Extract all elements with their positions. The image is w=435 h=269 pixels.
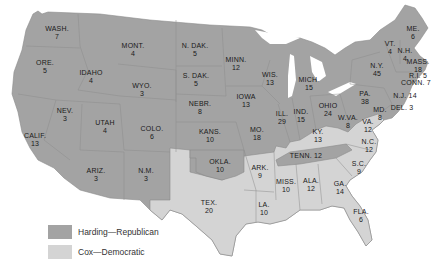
state-name: N.M. bbox=[138, 167, 154, 175]
state-label: WYO.3 bbox=[132, 82, 151, 98]
state-name: NEV. bbox=[57, 107, 74, 115]
legend-label-democratic: Cox—Democratic bbox=[78, 247, 145, 257]
state-label: NEV.3 bbox=[57, 107, 74, 123]
state-label: ARIZ.3 bbox=[87, 167, 106, 183]
state-name: ARIZ. bbox=[87, 167, 106, 175]
state-name: NEBR. bbox=[189, 100, 211, 108]
state-name: MONT. bbox=[122, 42, 145, 50]
state-name: COLO. bbox=[141, 125, 164, 133]
electoral-votes: 5 bbox=[183, 80, 209, 88]
electoral-votes: 3 bbox=[138, 175, 154, 183]
electoral-votes: 13 bbox=[24, 140, 46, 148]
electoral-votes: 12 bbox=[314, 152, 322, 159]
state-name: W.VA. bbox=[338, 114, 358, 122]
state-label: N.C.12 bbox=[362, 138, 377, 154]
legend-item-republican: Harding—Republican bbox=[48, 223, 159, 241]
state-name: ORE. bbox=[36, 59, 54, 67]
state-label: LA.10 bbox=[258, 201, 269, 217]
state-label: MISS.10 bbox=[276, 178, 296, 194]
state-label: ORE.5 bbox=[36, 59, 54, 75]
state-name: MISS. bbox=[276, 178, 296, 186]
state-name: WYO. bbox=[132, 82, 151, 90]
state-name: MD. bbox=[373, 106, 386, 114]
electoral-votes: 4 bbox=[385, 48, 396, 56]
electoral-votes: 3 bbox=[409, 104, 413, 111]
electoral-votes: 8 bbox=[189, 108, 211, 116]
state-label: IDAHO4 bbox=[79, 69, 102, 85]
state-name: CONN. bbox=[401, 79, 427, 86]
state-label: S. DAK.5 bbox=[183, 72, 209, 88]
legend-label-republican: Harding—Republican bbox=[78, 227, 159, 237]
state-name: N.Y. bbox=[370, 62, 384, 70]
electoral-votes: 12 bbox=[226, 64, 247, 72]
electoral-votes: 8 bbox=[338, 122, 358, 130]
state-name: S. DAK. bbox=[183, 72, 209, 80]
state-label: KANS.10 bbox=[199, 128, 221, 144]
state-name: KANS. bbox=[199, 128, 221, 136]
state-name: IOWA bbox=[236, 93, 255, 101]
electoral-votes: 13 bbox=[313, 136, 324, 144]
electoral-votes: 10 bbox=[258, 209, 269, 217]
legend-item-democratic: Cox—Democratic bbox=[48, 243, 159, 261]
electoral-votes: 7 bbox=[427, 79, 431, 86]
state-name: R.I. bbox=[409, 72, 423, 79]
electoral-votes: 6 bbox=[353, 216, 369, 224]
electoral-votes: 10 bbox=[199, 136, 221, 144]
state-name: OKLA. bbox=[209, 158, 231, 166]
state-name: TENN. bbox=[290, 152, 314, 159]
electoral-votes: 5 bbox=[182, 50, 209, 58]
state-label: MICH.15 bbox=[299, 76, 320, 92]
state-name: IDAHO bbox=[79, 69, 102, 77]
state-label: TEX.20 bbox=[201, 199, 217, 215]
state-label: COLO.6 bbox=[141, 125, 164, 141]
electoral-votes: 13 bbox=[262, 79, 278, 87]
legend: Harding—Republican Cox—Democratic bbox=[48, 223, 159, 263]
state-name: N.C. bbox=[362, 138, 377, 146]
state-label: N. DAK.5 bbox=[182, 42, 209, 58]
state-label: S.C.9 bbox=[352, 160, 366, 176]
state-name: MINN. bbox=[226, 56, 247, 64]
state-label: ARK.9 bbox=[251, 164, 268, 180]
state-name: DEL. bbox=[391, 104, 410, 111]
electoral-votes: 14 bbox=[409, 92, 417, 99]
electoral-votes: 45 bbox=[370, 70, 384, 78]
state-label: ILL.29 bbox=[276, 110, 288, 126]
state-name: MASS. bbox=[407, 58, 430, 66]
state-label: IND.15 bbox=[294, 108, 309, 124]
electoral-votes: 18 bbox=[250, 134, 264, 142]
state-label: MO.18 bbox=[250, 126, 264, 142]
state-name: WASH. bbox=[45, 25, 69, 33]
electoral-votes: 10 bbox=[209, 166, 231, 174]
state-label: WASH.7 bbox=[45, 25, 69, 41]
state-label: PA.38 bbox=[359, 90, 370, 106]
state-label: N.Y.45 bbox=[370, 62, 384, 78]
electoral-votes: 4 bbox=[122, 50, 145, 58]
state-label: WIS.13 bbox=[262, 71, 278, 87]
state-name: MICH. bbox=[299, 76, 320, 84]
state-label: IOWA13 bbox=[236, 93, 255, 109]
state-name: VT. bbox=[385, 40, 396, 48]
state-name: OHIO bbox=[319, 102, 338, 110]
electoral-votes: 6 bbox=[406, 33, 419, 41]
electoral-votes: 4 bbox=[79, 77, 102, 85]
state-name: CALIF. bbox=[24, 132, 46, 140]
state-label: CONN. 7 bbox=[401, 79, 431, 87]
electoral-votes: 24 bbox=[319, 110, 338, 118]
state-label: VT.4 bbox=[385, 40, 396, 56]
state-label: ME.6 bbox=[406, 25, 419, 41]
state-name: S.C. bbox=[352, 160, 366, 168]
electoral-votes: 5 bbox=[423, 72, 427, 79]
state-label: DEL. 3 bbox=[391, 104, 414, 112]
state-label: N.M.3 bbox=[138, 167, 154, 183]
electoral-votes: 9 bbox=[352, 168, 366, 176]
state-name: VA. bbox=[362, 118, 373, 126]
state-name: N.J. bbox=[393, 92, 408, 99]
electoral-votes: 7 bbox=[45, 33, 69, 41]
state-label: UTAH4 bbox=[95, 119, 114, 135]
electoral-votes: 12 bbox=[303, 185, 319, 193]
state-label: GA.14 bbox=[334, 180, 347, 196]
state-label: MINN.12 bbox=[226, 56, 247, 72]
state-label: NEBR.8 bbox=[189, 100, 211, 116]
electoral-votes: 14 bbox=[334, 188, 347, 196]
electoral-votes: 3 bbox=[57, 115, 74, 123]
